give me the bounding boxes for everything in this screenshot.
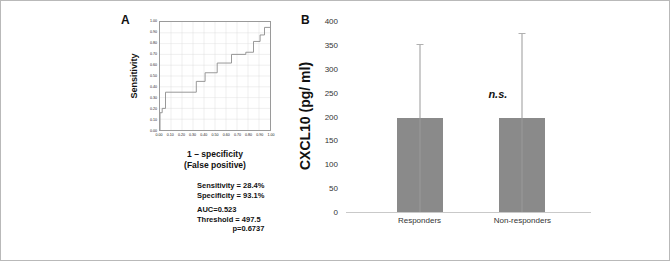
roc-x-axis-title-line1: 1 – specificity (159, 149, 271, 160)
roc-x-tick-label: 0.30 (189, 133, 196, 137)
roc-y-tick-label: 0.90 (150, 30, 157, 34)
roc-y-tick-label: 0.70 (150, 52, 157, 56)
bar-column (397, 21, 443, 212)
bar-y-tick-label: 0 (334, 208, 338, 217)
stat-threshold: Threshold = 497.5 (197, 215, 264, 225)
stat-specificity: Specificity = 93.1% (197, 191, 264, 201)
bar-category-label: Non-responders (494, 216, 551, 225)
roc-x-tick-label: 0.90 (256, 133, 263, 137)
bar-y-tick-label: 200 (325, 112, 338, 121)
roc-x-tick-label: 0.80 (245, 133, 252, 137)
roc-x-tick-label: 0.60 (223, 133, 230, 137)
bar-y-tick-label: 150 (325, 136, 338, 145)
roc-y-tick-label: 0.20 (150, 107, 157, 111)
stat-auc: AUC=0.523 (197, 205, 264, 215)
significance-annotation: n.s. (488, 88, 507, 100)
roc-y-tick-label: 0.10 (150, 118, 157, 122)
bar-y-tick-label: 100 (325, 160, 338, 169)
error-bar (419, 45, 420, 212)
bar-column (499, 21, 545, 212)
roc-x-axis-title-line2: (False positive) (159, 160, 271, 171)
error-bar (522, 34, 523, 212)
roc-statistics-block: Sensitivity = 28.4% Specificity = 93.1% … (197, 181, 264, 234)
stat-sensitivity: Sensitivity = 28.4% (197, 181, 264, 191)
panel-a-letter: A (121, 13, 130, 27)
panel-b-barchart: B CXCL10 (pg/ ml) n.s. 05010015020025030… (291, 1, 670, 261)
roc-y-tick-label: 0.30 (150, 96, 157, 100)
panel-a-roc: A Sensitivity (1, 1, 301, 261)
stat-pvalue: p=0.6737 (197, 224, 264, 234)
bar-y-axis-title: CXCL10 (pg/ ml) (297, 62, 313, 170)
roc-x-tick-label: 0.50 (212, 133, 219, 137)
panel-b-letter: B (301, 13, 310, 27)
roc-curve (160, 22, 270, 130)
roc-x-axis-title: 1 – specificity (False positive) (159, 149, 271, 171)
bar-y-tick-label: 300 (325, 64, 338, 73)
roc-x-tick-label: 0.10 (167, 133, 174, 137)
roc-x-tick-label: 0.40 (200, 133, 207, 137)
roc-y-tick-label: 0.40 (150, 85, 157, 89)
roc-x-tick-label: 0.70 (234, 133, 241, 137)
roc-x-tick-label: 0.20 (178, 133, 185, 137)
roc-y-tick-label: 0.60 (150, 63, 157, 67)
roc-y-tick-label: 0.50 (150, 74, 157, 78)
bar-y-tick-label: 250 (325, 88, 338, 97)
roc-x-tick-label: 0.00 (156, 133, 163, 137)
bar-y-tick-label: 350 (325, 40, 338, 49)
bar-plot-area (346, 21, 591, 212)
roc-y-axis-title: Sensitivity (129, 53, 139, 98)
bar-y-tick-label: 50 (329, 184, 338, 193)
bar-y-tick-label: 400 (325, 17, 338, 26)
roc-plot-area (159, 21, 271, 131)
roc-y-tick-label: 1.00 (150, 19, 157, 23)
bar-category-label: Responders (398, 216, 441, 225)
figure-container: A Sensitivity (0, 0, 670, 261)
error-bar-cap (416, 44, 423, 45)
error-bar-cap (519, 33, 526, 34)
bar-baseline-axis (346, 212, 591, 213)
roc-x-tick-label: 1.00 (268, 133, 275, 137)
roc-y-tick-label: 0.80 (150, 41, 157, 45)
